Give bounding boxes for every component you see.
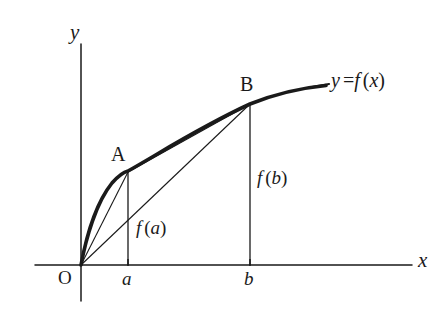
arg-glyph-b: b <box>272 167 282 188</box>
x-axis-label: x <box>418 250 427 271</box>
value-label-f-of-b: f(b) <box>257 168 287 187</box>
chord-ob <box>81 104 250 265</box>
equation-paren-close: ) <box>378 69 385 91</box>
curve-equation-label: y=f(x) <box>331 70 385 90</box>
paren-close-a: ) <box>160 217 166 238</box>
paren-close-b: ) <box>281 167 287 188</box>
x-tick-label-a: a <box>122 269 132 288</box>
equation-f-glyph: f <box>354 69 360 91</box>
arg-glyph-a: a <box>151 217 161 238</box>
function-curve <box>81 86 326 266</box>
origin-label: O <box>58 268 72 287</box>
f-glyph-b: f <box>257 167 262 188</box>
chord-oa <box>81 172 128 265</box>
math-figure: y x O a b A B f(a) f(b) y=f(x) <box>0 0 445 336</box>
f-glyph-a: f <box>136 217 141 238</box>
equation-y-glyph: y <box>331 69 340 91</box>
value-label-f-of-a: f(a) <box>136 218 166 237</box>
point-label-a: A <box>111 144 125 164</box>
equation-equals-glyph: = <box>343 69 354 91</box>
point-label-b: B <box>240 74 253 94</box>
equation-x-glyph: x <box>369 69 378 91</box>
x-tick-label-b: b <box>244 269 254 288</box>
y-axis-label: y <box>70 22 79 43</box>
